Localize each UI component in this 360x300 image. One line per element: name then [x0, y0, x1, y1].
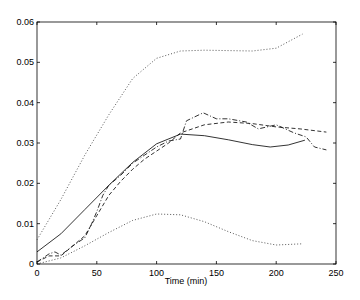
x-tick-label: 150 [209, 268, 224, 278]
y-tick-label: 0.05 [16, 57, 34, 67]
x-axis-label: Time (min) [165, 276, 208, 286]
line-chart: 050100150200250 00.010.020.030.040.050.0… [0, 0, 360, 300]
y-tick-label: 0.01 [16, 219, 34, 229]
y-tick-label: 0 [29, 259, 34, 269]
x-tick-label: 50 [92, 268, 102, 278]
y-tick-label: 0.03 [16, 138, 34, 148]
x-tick-label: 250 [328, 268, 343, 278]
x-tick-label: 0 [34, 268, 39, 278]
plot-area [37, 22, 336, 264]
y-tick-label: 0.06 [16, 17, 34, 27]
y-tick-label: 0.02 [16, 178, 34, 188]
x-tick-label: 200 [269, 268, 284, 278]
x-tick-label: 100 [149, 268, 164, 278]
y-tick-label: 0.04 [16, 98, 34, 108]
